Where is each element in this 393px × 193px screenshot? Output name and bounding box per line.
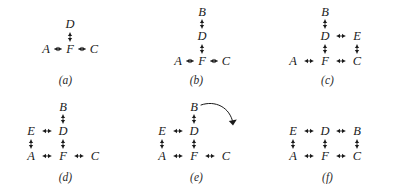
panel-d-label: (d): [0, 171, 131, 183]
edge-e-A-F: [170, 152, 186, 161]
node-d-A: A: [24, 150, 38, 162]
node-f-E: E: [286, 125, 300, 137]
panel-f: E D B A F C: [262, 97, 393, 193]
edge-d-D-F: [59, 137, 68, 152]
edge-a-F-C: [75, 45, 89, 54]
panel-c-graph: B D E A F C: [262, 0, 393, 78]
node-e-E: E: [155, 125, 169, 137]
edge-f-E-A: [289, 137, 298, 152]
edge-e-F-C: [202, 152, 218, 161]
panel-a: D A F C (a): [0, 0, 131, 96]
figure-six-graph-panels: D A F C (a) B D A F C: [0, 0, 393, 193]
node-f-D: D: [318, 125, 332, 137]
node-e-C: C: [219, 150, 233, 162]
annotation-curved-arrow-from-B: [199, 99, 243, 133]
node-f-B: B: [350, 125, 364, 137]
panel-b-label: (b): [131, 74, 262, 86]
edge-d-A-F: [39, 152, 55, 161]
edge-b-A-F: [183, 57, 197, 66]
node-c-C: C: [350, 55, 364, 67]
node-f-F: F: [318, 150, 332, 162]
edge-d-F-C: [71, 152, 87, 161]
panel-d: B E D A F C (d): [0, 97, 131, 193]
edge-f-F-C: [333, 152, 349, 161]
edge-f-D-B: [333, 127, 349, 136]
node-d-E: E: [24, 125, 38, 137]
edge-e-E-D: [170, 127, 186, 136]
node-b-C: C: [219, 55, 233, 67]
edge-c-E-C: [353, 42, 362, 57]
edge-d-E-D: [39, 127, 55, 136]
node-b-D: D: [195, 30, 209, 42]
edge-c-F-C: [333, 57, 349, 66]
node-d-F: F: [56, 150, 70, 162]
edge-f-B-C: [353, 137, 362, 152]
edge-d-B-D: [59, 112, 68, 127]
panel-e: B E D A F C: [131, 97, 262, 193]
panel-b-graph: B D A F C: [131, 0, 262, 78]
edge-f-D-F: [321, 137, 330, 152]
edge-b-B-D: [198, 17, 207, 32]
panel-b: B D A F C (b): [131, 0, 262, 96]
node-e-F: F: [187, 150, 201, 162]
edge-a-D-F: [66, 30, 75, 45]
panel-f-graph: E D B A F C: [262, 97, 393, 175]
node-c-A: A: [286, 55, 300, 67]
edge-f-E-D: [301, 127, 317, 136]
node-c-E: E: [350, 30, 364, 42]
edge-e-E-A: [158, 137, 167, 152]
panel-a-label: (a): [0, 74, 131, 86]
node-c-F: F: [318, 55, 332, 67]
panel-a-graph: D A F C: [0, 0, 131, 78]
edge-c-B-D: [321, 17, 330, 32]
node-e-A: A: [155, 150, 169, 162]
panel-e-label: (e): [131, 171, 262, 183]
edge-c-A-F: [301, 57, 317, 66]
node-d-C: C: [88, 150, 102, 162]
edge-c-D-F: [321, 42, 330, 57]
node-d-D: D: [56, 125, 70, 137]
edge-e-D-F: [190, 137, 199, 152]
edge-f-A-F: [301, 152, 317, 161]
node-a-D: D: [63, 18, 77, 30]
edge-d-E-A: [27, 137, 36, 152]
panel-c: B D E A F C (c): [262, 0, 393, 96]
panel-c-label: (c): [262, 74, 393, 86]
edge-c-D-E: [333, 32, 349, 41]
edge-b-D-F: [198, 42, 207, 57]
edge-e-B-D: [190, 112, 199, 127]
panel-f-label: (f): [262, 171, 393, 183]
node-f-C: C: [350, 150, 364, 162]
edge-a-A-F: [51, 45, 65, 54]
node-f-A: A: [286, 150, 300, 162]
edge-b-F-C: [207, 57, 221, 66]
node-a-C: C: [87, 43, 101, 55]
panel-e-graph: B E D A F C: [131, 97, 262, 175]
panel-d-graph: B E D A F C: [0, 97, 131, 175]
node-c-D: D: [318, 30, 332, 42]
